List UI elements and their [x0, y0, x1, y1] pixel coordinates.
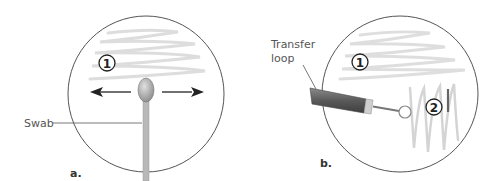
swab-label: Swab	[24, 117, 54, 130]
transfer-loop-label-line1: Transfer	[270, 38, 316, 51]
panel-b: 1 2 Transfer loop b.	[270, 16, 478, 172]
step-marker-1-a: 1	[99, 55, 115, 71]
transfer-loop-leader-line	[303, 65, 316, 89]
panel-label-b: b.	[320, 157, 332, 170]
step-number: 2	[430, 101, 438, 115]
step-number: 1	[356, 56, 364, 70]
panel-label-a: a.	[70, 167, 82, 180]
step-marker-1-b: 1	[352, 54, 368, 70]
diagram-canvas: 1 Swab a. 1	[0, 0, 494, 181]
step-number: 1	[103, 57, 111, 71]
transfer-loop-label-line2: loop	[271, 52, 295, 65]
panel-a: 1 Swab a.	[24, 16, 224, 181]
